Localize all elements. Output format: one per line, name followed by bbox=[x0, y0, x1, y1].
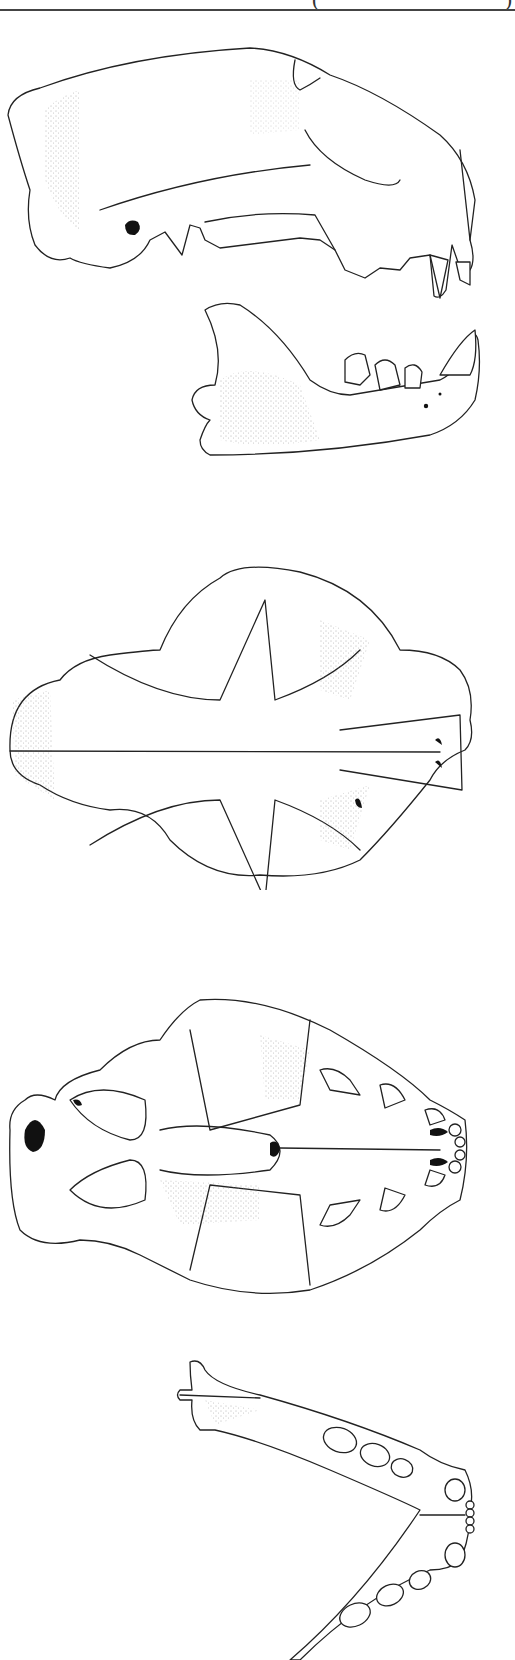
figure-page: ( ) bbox=[0, 0, 515, 1660]
header-fragment: ( ) bbox=[312, 0, 512, 6]
skull-lateral-view bbox=[0, 30, 515, 310]
mandible-lateral-view bbox=[0, 290, 515, 465]
header-rule bbox=[0, 9, 515, 11]
skull-dorsal-view bbox=[0, 540, 515, 890]
close-paren: ) bbox=[505, 0, 512, 6]
mandible-occlusal-view bbox=[0, 1350, 515, 1660]
open-paren: ( bbox=[312, 0, 319, 6]
skull-ventral-view bbox=[0, 950, 515, 1300]
